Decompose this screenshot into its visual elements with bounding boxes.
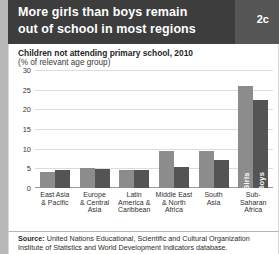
chart-title: Children not attending primary school, 2…: [18, 48, 193, 58]
bar-boys: [174, 167, 189, 188]
bar-groups: GirlsBoys: [35, 70, 273, 188]
plot-area: 30 25 20 15 10 5 0 GirlsBoys: [35, 70, 273, 188]
x-axis-label: Middle East& NorthAfrica: [154, 191, 194, 214]
x-axis-labels: East Asia& PacificEurope& CentralAsiaLat…: [35, 191, 273, 214]
bar-group: [75, 70, 115, 188]
bar-boys: [134, 170, 149, 188]
x-axis-label-line: Sub-Saharan: [233, 191, 273, 206]
x-axis-label-line: Asia: [75, 206, 115, 214]
legend-label-girls: Girls: [241, 172, 250, 190]
chart-figure: More girls than boys remain out of schoo…: [8, 0, 279, 253]
bar-group: [154, 70, 194, 188]
x-axis-label-line: East Asia: [35, 191, 75, 199]
bar-girls: Girls: [238, 86, 253, 188]
ytick-label-30: 30: [9, 66, 31, 75]
x-axis-label-line: & Pacific: [35, 199, 75, 207]
x-axis-label-line: Middle East: [154, 191, 194, 199]
x-axis-label: SouthAsia: [194, 191, 234, 214]
x-axis-label: Europe& CentralAsia: [75, 191, 115, 214]
x-axis-label: Sub-SaharanAfrica: [233, 191, 273, 214]
bar-boys: [95, 169, 110, 188]
x-axis-label-line: & North: [154, 199, 194, 207]
figure-number-badge: 2c: [257, 13, 269, 25]
chart-axis-unit-label: (% of relevant age group): [18, 58, 110, 67]
bar-group: [114, 70, 154, 188]
bar-group: [35, 70, 75, 188]
x-axis-label: East Asia& Pacific: [35, 191, 75, 214]
page-title: More girls than boys remain out of schoo…: [18, 4, 223, 38]
ytick-label-5: 5: [9, 164, 31, 173]
left-margin-strip: [0, 0, 8, 253]
ytick-label-20: 20: [9, 105, 31, 114]
bar-boys: [214, 160, 229, 188]
x-axis-label-line: South: [194, 191, 234, 199]
bar-group: GirlsBoys: [233, 70, 273, 188]
bar-boys: [55, 170, 70, 188]
bar-girls: [159, 151, 174, 188]
bar-boys: Boys: [253, 100, 268, 189]
legend-label-boys: Boys: [256, 172, 265, 191]
ytick-label-25: 25: [9, 85, 31, 94]
bar-girls: [119, 170, 134, 188]
bar-girls: [199, 151, 214, 188]
ytick-label-10: 10: [9, 144, 31, 153]
x-axis-label-line: Africa: [233, 206, 273, 214]
source-text: United Nations Educational, Scientific a…: [18, 234, 250, 252]
x-axis-label-line: & Central: [75, 199, 115, 207]
ytick-label-0: 0: [9, 184, 31, 193]
chart-footer: Source: United Nations Educational, Scie…: [8, 231, 279, 254]
x-axis-label-line: Asia: [194, 199, 234, 207]
x-axis-label-line: Europe: [75, 191, 115, 199]
bar-girls: [40, 172, 55, 188]
ytick-label-15: 15: [9, 125, 31, 134]
x-axis-label-line: Latin: [114, 191, 154, 199]
bar-group: [194, 70, 234, 188]
x-axis-label-line: Africa: [154, 206, 194, 214]
x-axis-label-line: Caribbean: [114, 206, 154, 214]
chart-header: More girls than boys remain out of schoo…: [8, 0, 279, 44]
source-note: Source: United Nations Educational, Scie…: [18, 235, 274, 252]
bar-girls: [80, 168, 95, 188]
x-axis-label: LatinAmerica &Caribbean: [114, 191, 154, 214]
header-title-line1: More girls than boys remain: [18, 4, 223, 21]
x-axis-label-line: America &: [114, 199, 154, 207]
figure-number-block: 2c: [235, 0, 279, 44]
chart-body: Children not attending primary school, 2…: [8, 44, 279, 231]
header-title-line2: out of school in most regions: [18, 21, 223, 38]
